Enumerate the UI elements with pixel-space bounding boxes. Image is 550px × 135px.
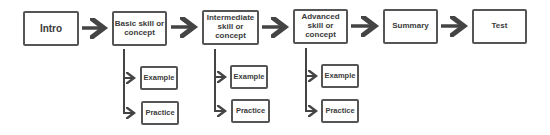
step-intermediate-skill: Intermediate skill or concept bbox=[202, 10, 259, 45]
basic-example: Example bbox=[140, 66, 178, 90]
step-intro: Intro bbox=[23, 11, 79, 46]
step-test: Test bbox=[472, 9, 527, 44]
connector-arrows bbox=[0, 0, 550, 135]
step-basic-skill: Basic skill or concept bbox=[112, 11, 167, 46]
step-summary: Summary bbox=[383, 9, 438, 44]
basic-practice: Practice bbox=[141, 101, 179, 125]
step-advanced-skill: Advanced skill or concept bbox=[293, 9, 348, 44]
intermediate-example: Example bbox=[230, 65, 268, 89]
advanced-practice: Practice bbox=[321, 99, 359, 123]
advanced-example: Example bbox=[321, 64, 359, 88]
intermediate-practice: Practice bbox=[231, 99, 270, 123]
